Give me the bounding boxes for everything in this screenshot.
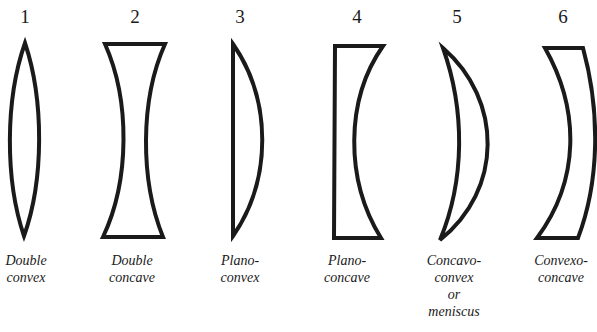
double-concave-lens-icon xyxy=(103,44,165,237)
lens-label-5-line4: meniscus xyxy=(420,303,488,320)
lens-label-5-line2: convex xyxy=(420,269,488,286)
lens-label-2-line1: Double xyxy=(103,252,161,269)
lens-label-6-line2: concave xyxy=(527,269,595,286)
lens-label-4-line1: Plano- xyxy=(318,252,376,269)
plano-concave-lens-icon xyxy=(334,46,383,238)
lens-label-6: Convexo- concave xyxy=(527,252,595,286)
double-convex-lens-icon xyxy=(10,43,39,236)
lens-label-2: Double concave xyxy=(103,252,161,286)
lens-label-1-line1: Double xyxy=(0,252,52,269)
convexo-concave-lens-icon xyxy=(537,48,595,238)
lens-label-1: Double convex xyxy=(0,252,52,286)
lens-label-4-line2: concave xyxy=(318,269,376,286)
lens-label-3-line2: convex xyxy=(212,269,268,286)
lens-label-1-line2: convex xyxy=(0,269,52,286)
lens-label-6-line1: Convexo- xyxy=(527,252,595,269)
lens-label-2-line2: concave xyxy=(103,269,161,286)
lens-label-5-line1: Concavo- xyxy=(420,252,488,269)
lens-label-3-line1: Plano- xyxy=(212,252,268,269)
lens-label-5-line3: or xyxy=(420,286,488,303)
meniscus-lens-icon xyxy=(440,48,488,240)
lens-label-4: Plano- concave xyxy=(318,252,376,286)
lens-label-3: Plano- convex xyxy=(212,252,268,286)
plano-convex-lens-icon xyxy=(233,44,262,236)
lens-shapes xyxy=(0,0,597,332)
lens-label-5: Concavo- convex or meniscus xyxy=(420,252,488,320)
